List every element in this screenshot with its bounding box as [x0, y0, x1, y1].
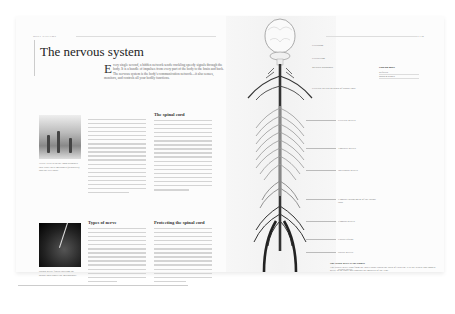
- label-lumbar-enlargement: Lumbar enlargement of the spinal cord: [338, 198, 378, 204]
- page-title: The nervous system: [40, 44, 144, 60]
- nervous-system-diagram: [226, 16, 336, 272]
- right-page: THE NERVOUS SYSTEM Cerebrum Cerebellum M…: [226, 16, 444, 272]
- nervous-system-illustration: [226, 16, 336, 272]
- text-column-protecting: Protecting the spinal cord: [154, 221, 212, 285]
- text-column-types-of-nerve: Types of nerve: [88, 221, 146, 285]
- sciatic-note: The sciatic nerve is the longest The sci…: [330, 262, 440, 273]
- drop-cap: E: [104, 63, 112, 74]
- intro-text: very single second, a hidden network sen…: [104, 63, 224, 80]
- note-heading: The sciatic nerve is the longest: [330, 262, 365, 265]
- label-medulla: Medulla oblongata: [312, 66, 333, 69]
- section-heading: The spinal cord: [154, 113, 212, 117]
- text-column: [88, 116, 146, 196]
- label-cauda-equina: Cauda equina: [338, 238, 353, 241]
- section-heading: Protecting the spinal cord: [154, 221, 212, 225]
- note-text: The sciatic nerve runs from the lower sp…: [330, 266, 436, 273]
- intro-paragraph: E very single second, a hidden network s…: [104, 63, 226, 81]
- label-sacral-nerves: Sacral nerves: [338, 251, 353, 254]
- box-row: Brain & senses: [379, 75, 419, 79]
- label-cervical-nerves: Cervical nerves: [338, 119, 355, 122]
- left-page: BODY SYSTEMS The nervous system E very s…: [16, 16, 226, 272]
- box-title: Find out more: [379, 66, 419, 69]
- spinal-nerve-photo: [39, 223, 81, 267]
- running-head-left: BODY SYSTEMS: [33, 35, 56, 38]
- label-cerebrum: Cerebrum: [312, 44, 323, 47]
- text-column-spinal-cord: The spinal cord: [154, 113, 212, 193]
- nerve-cells-photo: [39, 115, 81, 159]
- book-spread: BODY SYSTEMS The nervous system E very s…: [16, 16, 444, 272]
- running-head-rule: [326, 36, 416, 37]
- photo-caption: Spinal nerve fibers entering the spinal …: [39, 270, 81, 277]
- label-cerebellum: Cerebellum: [312, 57, 325, 60]
- label-intercostal-nerves: Intercostal nerves: [338, 169, 358, 172]
- find-out-more-box: Find out more Reflexes Brain & senses: [379, 66, 419, 79]
- label-cervical-plexus: Cervical plexus network of spinal cord: [312, 87, 355, 90]
- footer-rule: [18, 285, 188, 286]
- margin-rule: [34, 40, 35, 76]
- section-heading: Types of nerve: [88, 221, 146, 225]
- label-lumbar-nerves: Lumbar nerves: [338, 220, 355, 223]
- photo-caption: Nerve cells with the long branches that …: [39, 162, 81, 173]
- label-thoracic-nerves: Thoracic nerves: [338, 147, 356, 150]
- running-head-rule: [76, 36, 216, 37]
